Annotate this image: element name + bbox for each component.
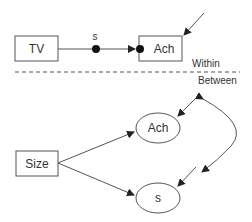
ach-label: Ach (154, 42, 175, 56)
ach-between-label: Ach (148, 121, 169, 135)
s-between-node: s (136, 183, 180, 213)
size-node: Size (16, 151, 58, 176)
diagram-canvas: TV Ach s Within Between Size Ach s (0, 0, 252, 222)
slope-label: s (93, 31, 98, 42)
s-between-residual-arrow (178, 167, 196, 186)
covariance-arrow (202, 99, 236, 172)
size-label: Size (25, 157, 49, 171)
tv-node: TV (15, 36, 58, 61)
random-slope-dot (92, 45, 100, 53)
ach-between-residual-arrow (178, 98, 196, 116)
within-label: Within (192, 58, 220, 69)
size-to-s-arrow (58, 163, 134, 195)
tv-label: TV (29, 42, 44, 56)
size-to-ach-arrow (58, 132, 134, 163)
slope-target-dot (136, 45, 144, 53)
within-residual-arrow (184, 13, 204, 35)
ach-node: Ach (139, 36, 182, 61)
tv-to-ach-path: s (58, 31, 144, 53)
ach-between-node: Ach (136, 113, 180, 143)
between-label: Between (198, 75, 237, 86)
s-between-label: s (155, 191, 161, 205)
